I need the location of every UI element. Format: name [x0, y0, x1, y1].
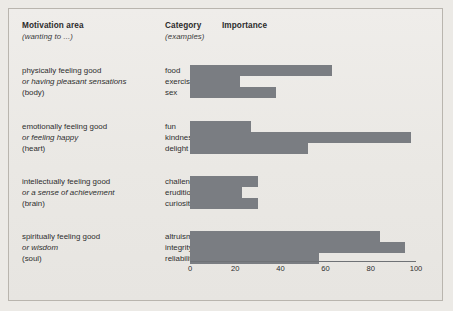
bar-curiosity — [190, 198, 258, 209]
column-header-motivation-area: Motivation area (wanting to ...) — [22, 21, 84, 41]
x-axis-tick-60: 60 — [321, 264, 329, 273]
row-label-heart: emotionally feeling good or feeling happ… — [22, 121, 167, 155]
row-label-body: physically feeling good or having pleasa… — [22, 65, 167, 99]
bar-food — [190, 65, 332, 76]
row-label-brain: intellectually feeling good or a sense o… — [22, 176, 167, 210]
x-axis-tick-20: 20 — [231, 264, 239, 273]
row-label-heart-line2: or feeling happy — [22, 132, 167, 143]
figure-inner: Motivation area (wanting to ...) Categor… — [9, 9, 442, 300]
row-label-brain-line2: or a sense of achievement — [22, 187, 167, 198]
row-label-heart-line3: (heart) — [22, 143, 167, 154]
row-label-soul: spiritually feeling good or wisdom (soul… — [22, 231, 167, 265]
x-axis-tick-0: 0 — [188, 264, 192, 273]
row-label-body-line1: physically feeling good — [22, 65, 167, 76]
column-header-motivation-subtitle: (wanting to ...) — [22, 32, 84, 41]
row-label-soul-line3: (soul) — [22, 253, 167, 264]
row-label-soul-line2: or wisdom — [22, 242, 167, 253]
row-label-body-line3: (body) — [22, 87, 167, 98]
bar-challenges — [190, 176, 258, 187]
x-axis-line — [190, 261, 416, 262]
x-axis-tick-80: 80 — [367, 264, 375, 273]
column-header-category-title: Category — [165, 21, 201, 30]
row-label-body-line2: or having pleasant sensations — [22, 76, 167, 87]
bar-fun — [190, 121, 251, 132]
row-label-heart-line1: emotionally feeling good — [22, 121, 167, 132]
column-header-importance: Importance — [222, 21, 267, 30]
bar-reliability — [190, 253, 319, 264]
figure-canvas: Motivation area (wanting to ...) Categor… — [0, 0, 453, 311]
bar-altruism — [190, 231, 380, 242]
bar-integrity — [190, 242, 405, 253]
row-label-brain-line1: intellectually feeling good — [22, 176, 167, 187]
row-label-soul-line1: spiritually feeling good — [22, 231, 167, 242]
column-header-importance-title: Importance — [222, 21, 267, 30]
column-header-motivation-title: Motivation area — [22, 21, 84, 30]
row-label-brain-line3: (brain) — [22, 198, 167, 209]
bar-kindness — [190, 132, 411, 143]
figure-frame: Motivation area (wanting to ...) Categor… — [8, 8, 443, 301]
bar-chart-plot-area: 0 20 40 60 80 100 — [190, 33, 425, 278]
x-axis-tick-100: 100 — [410, 264, 423, 273]
bar-erudition — [190, 187, 242, 198]
x-axis-tick-40: 40 — [276, 264, 284, 273]
bar-exercise — [190, 76, 240, 87]
bar-sex — [190, 87, 276, 98]
bar-delight — [190, 143, 308, 154]
